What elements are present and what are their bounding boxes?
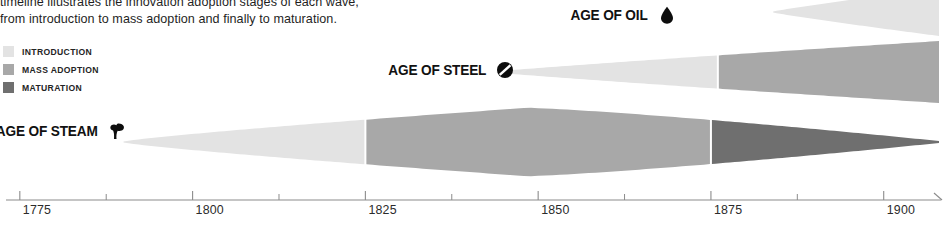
wave-phase-steam-mass-adoption bbox=[366, 108, 710, 176]
timeline-axis: 177518001825185018751900 bbox=[0, 186, 945, 231]
wave-label-oil-text: AGE OF OIL bbox=[571, 6, 648, 24]
wave-phase-steam-introduction bbox=[123, 120, 364, 165]
wave-phase-steel-introduction bbox=[497, 55, 717, 88]
wave-band-steam bbox=[123, 108, 939, 176]
steam-puff-icon bbox=[107, 121, 127, 141]
axis-label-1800: 1800 bbox=[196, 203, 224, 217]
axis-label-1875: 1875 bbox=[714, 203, 742, 217]
axis-arrowhead bbox=[934, 193, 942, 200]
oil-drop-icon bbox=[657, 5, 677, 25]
wave-label-oil: AGE OF OIL bbox=[560, 5, 677, 25]
axis-label-1850: 1850 bbox=[541, 203, 569, 217]
wave-band-steel bbox=[497, 41, 939, 103]
axis-label-1825: 1825 bbox=[368, 203, 396, 217]
axis-label-1775: 1775 bbox=[23, 203, 51, 217]
steel-slashed-circle-icon bbox=[495, 60, 515, 80]
wave-label-steam: AGE OF STEAM bbox=[0, 121, 127, 141]
infographic-canvas: timeline illustrates the innovation adop… bbox=[0, 0, 945, 231]
wave-band-oil bbox=[773, 0, 939, 36]
wave-label-steel: AGE OF STEEL bbox=[375, 60, 515, 80]
axis-label-1900: 1900 bbox=[887, 203, 915, 217]
wave-label-steel-text: AGE OF STEEL bbox=[388, 61, 486, 79]
wave-phase-steel-mass-adoption bbox=[719, 41, 939, 103]
wave-phase-steam-maturation bbox=[712, 120, 939, 164]
axis-line-and-ticks bbox=[0, 186, 945, 208]
wave-label-steam-text: AGE OF STEAM bbox=[0, 122, 98, 140]
wave-phase-oil-introduction bbox=[773, 0, 939, 36]
